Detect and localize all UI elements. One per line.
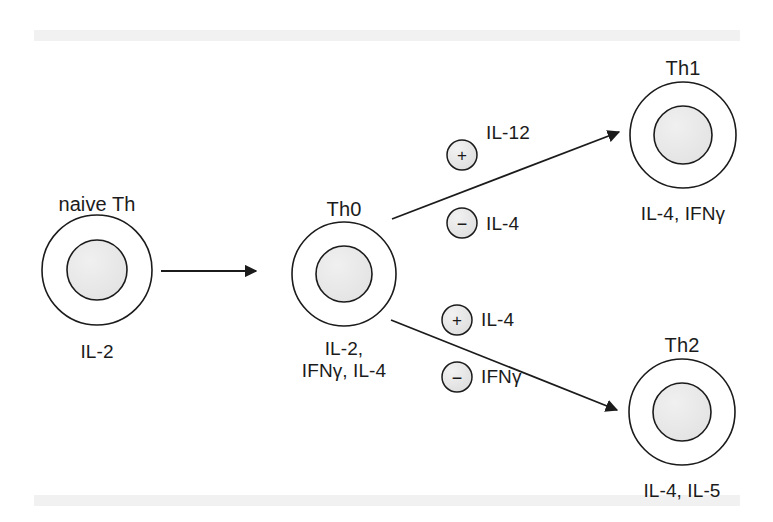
signal-th1-positive: + [447,140,477,170]
signal-sign-th1-negative: − [457,214,468,234]
signal-th2-positive: + [442,305,472,335]
signal-cytokine-label-th2-positive: IL-4 [481,309,514,331]
signal-th1-negative: − [447,208,477,238]
cell-nucleus-th2 [653,383,711,441]
cell-cytokines-label-th0: IL-2,IFNγ, IL-4 [302,338,386,382]
cell-name-label-th0: Th0 [327,198,362,221]
cell-cytokines-label-naive-th: IL-2 [80,341,113,363]
signal-th2-negative: − [442,362,472,392]
cell-name-label-naive-th: naive Th [58,193,135,216]
cytokine-line: IL-4, IFNγ [641,203,725,225]
diagram-vector-layer: +−+− [0,0,773,522]
arrow-th0-to-th1 [392,132,619,219]
cell-name-label-th1: Th1 [666,57,701,80]
signals-layer: +−+− [442,140,477,392]
cells-layer [42,82,736,465]
cell-naive-th [42,215,152,325]
signal-sign-th1-positive: + [457,146,467,165]
signal-sign-th2-negative: − [452,368,463,388]
cell-nucleus-naive-th [67,240,127,300]
cell-th0 [292,222,396,326]
cell-nucleus-th1 [654,106,712,164]
cytokine-line: IFNγ, IL-4 [302,360,386,382]
th-differentiation-diagram: +−+− naive ThIL-2Th0IL-2,IFNγ, IL-4Th1IL… [0,0,773,522]
arrow-th0-to-th2 [391,320,617,410]
cell-cytokines-label-th2: IL-4, IL-5 [643,480,720,502]
signal-cytokine-label-th1-positive: IL-12 [486,122,530,144]
cell-nucleus-th0 [316,246,372,302]
cell-th2 [629,359,735,465]
cytokine-line: IL-2, [302,338,386,360]
cell-cytokines-label-th1: IL-4, IFNγ [641,203,725,225]
cytokine-line: IL-4, IL-5 [643,480,720,502]
signal-cytokine-label-th2-negative: IFNγ [481,366,522,388]
cytokine-line: IL-2 [80,341,113,363]
signal-cytokine-label-th1-negative: IL-4 [486,213,519,235]
cell-name-label-th2: Th2 [665,334,700,357]
signal-sign-th2-positive: + [452,311,462,330]
cell-th1 [630,82,736,188]
